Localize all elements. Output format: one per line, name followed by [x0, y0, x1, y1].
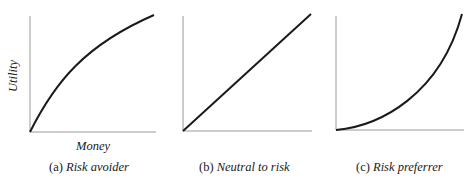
panel-c-risk-preferrer: [336, 14, 464, 130]
panel-c-caption-prefix: (c): [356, 160, 370, 174]
panel-a-caption-prefix: (a): [49, 160, 63, 174]
panel-b-caption-name: Neutral to risk: [217, 160, 290, 174]
panel-a-y-axis-label: Utility: [6, 60, 21, 92]
panel-a-risk-avoider: [30, 15, 156, 132]
panel-a-caption: (a) Risk avoider: [49, 160, 129, 175]
panel-c-curve: [336, 14, 462, 130]
panel-c-caption: (c) Risk preferrer: [356, 160, 443, 175]
panel-b-neutral-to-risk: [183, 14, 312, 131]
panel-b-curve: [183, 14, 311, 131]
panel-b-caption-prefix: (b): [199, 160, 214, 174]
panel-b-caption: (b) Neutral to risk: [199, 160, 290, 175]
panel-a-curve: [30, 15, 154, 132]
panel-a-caption-name: Risk avoider: [66, 160, 129, 174]
panel-c-caption-name: Risk preferrer: [373, 160, 443, 174]
charts-canvas: [0, 0, 476, 181]
panel-a-x-axis-label: Money: [76, 139, 110, 154]
utility-curves-figure: Utility Money (a) Risk avoider (b) Neutr…: [0, 0, 476, 181]
